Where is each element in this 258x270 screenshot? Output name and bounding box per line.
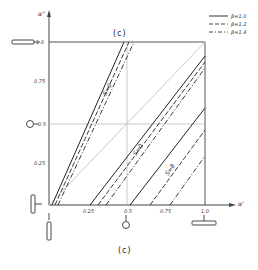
legend-item-2: β=1.2 bbox=[231, 21, 246, 28]
top-caption: (c) bbox=[112, 29, 126, 38]
legend-item-1: β=1.0 bbox=[231, 13, 246, 20]
circle-marker-left-icon bbox=[27, 121, 34, 128]
bar-marker-right-icon bbox=[192, 221, 216, 225]
curve-family-3 bbox=[130, 108, 205, 205]
y-axis-label: α'' bbox=[38, 10, 46, 17]
curve-label-1: S=0 bbox=[101, 82, 113, 97]
circle-marker-bottom-icon bbox=[123, 222, 130, 229]
y-tick-0.75: 0.75 bbox=[34, 78, 45, 84]
bar-marker-left-icon bbox=[31, 195, 35, 213]
plot-frame bbox=[47, 10, 236, 207]
diagram-canvas: S=0 S=0 S=8 α'' α' 1.0 0.75 0.5 0.25 0.2… bbox=[0, 0, 258, 270]
legend: β=1.0 β=1.2 β=1.4 bbox=[209, 13, 246, 36]
x-tick-0.25: 0.25 bbox=[83, 208, 94, 214]
x-tick-1.0: 1.0 bbox=[201, 208, 209, 214]
bar-marker-top-icon bbox=[12, 40, 34, 44]
x-axis-label: α' bbox=[238, 200, 244, 207]
marker-symbols bbox=[12, 40, 216, 240]
x-tick-0.75: 0.75 bbox=[160, 208, 171, 214]
legend-item-3: β=1.4 bbox=[231, 29, 246, 36]
bar-marker-bottom-icon bbox=[47, 222, 51, 240]
y-tick-0.5: 0.5 bbox=[38, 121, 46, 127]
curve-family-1 bbox=[52, 42, 134, 205]
curve-label-3: S=8 bbox=[163, 162, 176, 177]
bottom-caption: (c) bbox=[117, 246, 131, 255]
y-tick-0.25: 0.25 bbox=[34, 160, 45, 166]
x-tick-0.5: 0.5 bbox=[124, 208, 132, 214]
